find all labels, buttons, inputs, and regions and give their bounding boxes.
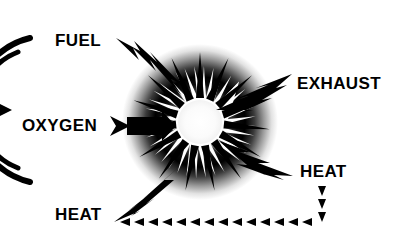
burst-core [178, 100, 222, 144]
label-heat-output: HEAT [300, 162, 347, 181]
label-oxygen: OXYGEN [22, 116, 97, 135]
diagram-svg: FUEL OXYGEN HEAT EXHAUST HEAT [0, 0, 400, 249]
combustion-diagram-canvas: FUEL OXYGEN HEAT EXHAUST HEAT [0, 0, 400, 249]
label-fuel: FUEL [55, 31, 101, 50]
label-heat-input: HEAT [55, 205, 102, 224]
label-exhaust: EXHAUST [297, 74, 381, 93]
